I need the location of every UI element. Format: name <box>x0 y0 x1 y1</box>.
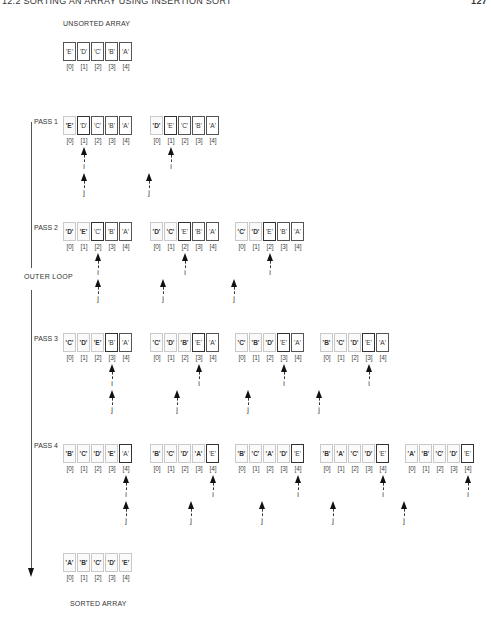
dashed-shaft <box>234 287 235 294</box>
index-label: [1] <box>249 354 263 361</box>
index-label: [0] <box>63 465 77 472</box>
i-label: i <box>180 268 190 277</box>
dashed-shaft <box>199 372 200 379</box>
array-cell: 'B' <box>192 222 205 241</box>
array-cell: 'C' <box>178 116 191 135</box>
i-pointer: i <box>293 475 303 499</box>
array-cell: 'E' <box>277 333 290 352</box>
j-label: j <box>107 405 117 414</box>
index-label: [3] <box>362 354 376 361</box>
i-label: i <box>279 379 289 388</box>
array-cell: 'B' <box>77 553 90 572</box>
index-label: [0] <box>235 243 249 250</box>
array-cell: 'E' <box>192 333 205 352</box>
j-pointer: j <box>107 390 117 414</box>
i-pointer: i <box>279 364 289 388</box>
up-arrow-icon <box>210 475 216 483</box>
index-label: [0] <box>405 465 419 472</box>
array-state: 'C''B''D''E''A'[0][1][2][3][4] <box>235 333 305 361</box>
index-label: [2] <box>178 465 192 472</box>
index-label: [2] <box>91 354 105 361</box>
i-label: i <box>166 162 176 171</box>
index-label: [0] <box>150 137 164 144</box>
array-state: 'B''C''A''D''E'[0][1][2][3][4] <box>235 444 305 472</box>
index-label: [4] <box>206 243 220 250</box>
j-pointer: j <box>399 501 409 525</box>
array-cell: 'C' <box>164 222 177 241</box>
dashed-shaft <box>112 372 113 379</box>
dashed-shaft <box>262 509 263 516</box>
i-pointer: i <box>93 253 103 277</box>
index-label: [3] <box>105 243 119 250</box>
j-label: j <box>314 405 324 414</box>
index-label: [3] <box>192 137 206 144</box>
index-label: [2] <box>348 354 362 361</box>
dashed-shaft <box>369 372 370 379</box>
up-arrow-icon <box>123 475 129 483</box>
up-arrow-icon <box>330 501 336 509</box>
array-cell: 'D' <box>150 222 163 241</box>
unsorted-array: 'E' 'D' 'C' 'B' 'A' [0] [1] [2] [3] [4] <box>63 42 133 70</box>
up-arrow-icon <box>267 253 273 261</box>
array-cell: 'E' <box>362 333 375 352</box>
index-label: [2] <box>263 465 277 472</box>
index-label: [3] <box>105 354 119 361</box>
j-label: j <box>328 516 338 525</box>
j-pointer: j <box>257 501 267 525</box>
dashed-shaft <box>177 398 178 405</box>
dashed-shaft <box>112 398 113 405</box>
index-label: [4] <box>119 137 133 144</box>
array-state: 'C''D''E''B''A'[0][1][2][3][4] <box>235 222 305 250</box>
dashed-shaft <box>163 287 164 294</box>
up-arrow-icon <box>182 253 188 261</box>
dashed-shaft <box>185 261 186 268</box>
array-cell: 'A' <box>119 333 132 352</box>
array-cell: 'E' <box>376 444 389 463</box>
j-pointer: j <box>314 390 324 414</box>
index-label: [3] <box>105 574 119 581</box>
array-cell: 'E' <box>105 444 118 463</box>
j-pointer: j <box>144 173 154 197</box>
index-label: [3] <box>105 465 119 472</box>
dashed-shaft <box>84 155 85 162</box>
array-cell: 'B' <box>320 333 333 352</box>
up-arrow-icon <box>81 173 87 181</box>
i-pointer: i <box>121 475 131 499</box>
j-pointer: j <box>121 501 131 525</box>
j-pointer: j <box>229 279 239 303</box>
up-arrow-icon <box>245 390 251 398</box>
index-label: [4] <box>119 354 133 361</box>
array-cell: 'D' <box>105 553 118 572</box>
j-pointer: j <box>93 279 103 303</box>
array-state: 'C''D''B''E''A'[0][1][2][3][4] <box>150 333 220 361</box>
array-state: 'D''E''C''B''A'[0][1][2][3][4] <box>150 116 220 144</box>
index-label: [2] <box>433 465 447 472</box>
index-label: [4] <box>119 243 133 250</box>
index-label: [2] <box>91 465 105 472</box>
index-label: [0] <box>235 354 249 361</box>
index-label: [1] <box>334 354 348 361</box>
dashed-shaft <box>98 287 99 294</box>
j-label: j <box>172 405 182 414</box>
pass-label: PASS 2 <box>34 224 58 231</box>
array-cell: 'E' <box>206 444 219 463</box>
i-label: i <box>121 490 131 499</box>
dashed-shaft <box>284 372 285 379</box>
array-cell: 'C' <box>91 42 104 61</box>
array-cell: 'B' <box>150 444 163 463</box>
index-label: [2] <box>178 354 192 361</box>
index-label: [4] <box>376 465 390 472</box>
up-arrow-icon <box>109 390 115 398</box>
index-label: [1] <box>164 137 178 144</box>
array-cell: 'A' <box>263 444 276 463</box>
index-label: [3] <box>105 63 119 70</box>
array-state: 'B''A''C''D''E'[0][1][2][3][4] <box>320 444 390 472</box>
index-label: [4] <box>291 243 305 250</box>
i-label: i <box>107 379 117 388</box>
array-cell: 'E' <box>461 444 474 463</box>
array-cell: 'D' <box>263 333 276 352</box>
index-label: [2] <box>91 574 105 581</box>
unsorted-array-label: UNSORTED ARRAY <box>63 20 130 27</box>
j-label: j <box>93 294 103 303</box>
array-cell: 'E' <box>164 116 177 135</box>
